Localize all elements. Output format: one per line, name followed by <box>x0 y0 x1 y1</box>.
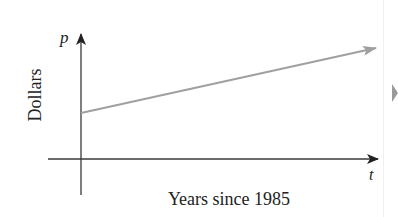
y-axis-title: Dollars <box>25 69 45 122</box>
y-variable-label: p <box>59 28 69 47</box>
x-variable-label: t <box>369 166 374 183</box>
x-axis-title: Years since 1985 <box>168 189 290 209</box>
data-line <box>81 48 376 113</box>
page-edge-tab-icon <box>392 84 398 102</box>
line-chart: p t Dollars Years since 1985 <box>0 0 398 217</box>
page-edge-line <box>383 0 384 217</box>
